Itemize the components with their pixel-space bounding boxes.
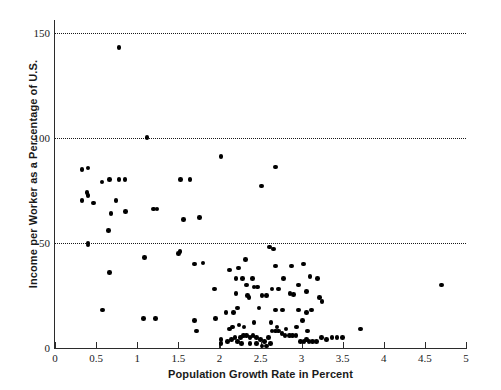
data-point (142, 255, 147, 260)
x-tick-label-3: 3 (287, 352, 317, 364)
data-point (231, 310, 236, 315)
data-point (319, 335, 324, 340)
data-point (247, 295, 252, 300)
data-point (340, 335, 345, 340)
data-point (314, 339, 319, 344)
data-point (304, 310, 309, 315)
data-point (308, 274, 313, 279)
data-point (281, 276, 286, 281)
x-tick-label-2.5: 2.5 (246, 352, 276, 364)
data-point (294, 325, 299, 330)
data-point (100, 308, 105, 313)
data-point (109, 211, 114, 216)
data-point (155, 207, 160, 212)
x-tick-label-0: 0 (40, 352, 70, 364)
x-tick-label-4.5: 4.5 (410, 352, 440, 364)
data-point (264, 293, 269, 298)
data-point (145, 135, 150, 140)
data-point (178, 249, 183, 254)
data-point (358, 327, 363, 332)
data-point (309, 308, 314, 313)
x-tick-label-4: 4 (369, 352, 399, 364)
data-point (296, 308, 301, 313)
data-point (315, 276, 320, 281)
data-point (248, 341, 253, 346)
data-point (273, 308, 278, 313)
data-point (269, 320, 274, 325)
data-point (296, 283, 301, 288)
data-point (335, 335, 340, 340)
y-tick-label-150: 150 (5, 27, 50, 39)
data-point (181, 217, 186, 222)
y-tick-label-50: 50 (5, 237, 50, 249)
data-point (250, 276, 255, 281)
data-point (291, 292, 296, 297)
data-point (305, 329, 310, 334)
data-point (289, 264, 294, 269)
data-point (91, 201, 96, 206)
data-point (320, 299, 325, 304)
data-point (141, 316, 146, 321)
data-point (240, 276, 245, 281)
data-point (242, 325, 247, 330)
data-point (294, 333, 299, 338)
plot-data-area (55, 22, 466, 348)
data-point (268, 341, 273, 346)
data-point (243, 257, 248, 262)
data-point (219, 341, 224, 346)
data-point (234, 276, 239, 281)
data-point (230, 325, 235, 330)
data-point (239, 341, 244, 346)
data-point (192, 262, 197, 267)
x-tick-label-1: 1 (122, 352, 152, 364)
data-point (271, 247, 276, 252)
data-point (237, 323, 242, 328)
x-tick-label-3.5: 3.5 (328, 352, 358, 364)
y-tick-label-100: 100 (5, 132, 50, 144)
x-tick-label-5: 5 (451, 352, 481, 364)
data-point (266, 335, 271, 340)
data-point (80, 167, 85, 172)
data-point (244, 283, 249, 288)
data-point (254, 341, 259, 346)
data-point (301, 262, 306, 267)
data-point (117, 177, 122, 182)
data-point (86, 243, 91, 248)
data-point (123, 209, 128, 214)
data-point (259, 184, 264, 189)
data-point (153, 316, 158, 321)
data-point (255, 285, 260, 290)
data-point (439, 283, 444, 288)
data-point (284, 327, 289, 332)
scatter-plot-figure: Income per Worker as a Percentage of U.S… (0, 0, 501, 390)
data-point (300, 318, 305, 323)
data-point (213, 316, 218, 321)
data-point (178, 177, 183, 182)
data-point (123, 177, 128, 182)
data-point (192, 318, 197, 323)
data-point (107, 177, 112, 182)
data-point (194, 329, 199, 334)
x-tick-mark-5 (466, 342, 467, 349)
data-point (252, 320, 257, 325)
data-point (107, 270, 112, 275)
data-point (276, 287, 281, 292)
data-point (234, 291, 239, 296)
data-point (270, 287, 275, 292)
data-point (201, 261, 206, 266)
data-point (224, 310, 229, 315)
y-axis-title: Income per Worker as a Percentage of U.S… (22, 0, 44, 348)
data-point (324, 337, 329, 342)
data-point (235, 306, 240, 311)
data-point (86, 193, 91, 198)
x-tick-label-2: 2 (204, 352, 234, 364)
data-point (280, 308, 285, 313)
data-point (188, 177, 193, 182)
data-point (304, 289, 309, 294)
data-point (114, 198, 119, 203)
data-point (236, 266, 241, 271)
data-point (117, 45, 122, 50)
data-point (106, 228, 111, 233)
x-axis-title: Population Growth Rate in Percent (55, 368, 466, 380)
data-point (100, 180, 105, 185)
